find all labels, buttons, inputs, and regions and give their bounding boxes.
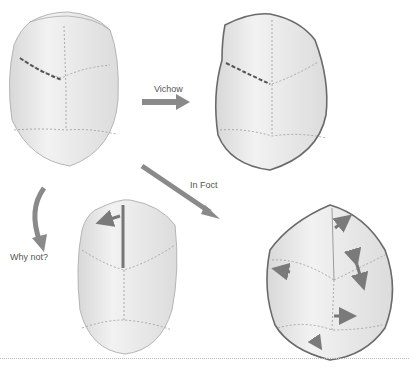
virchow-arrow [142, 94, 190, 110]
in-fact-skull [267, 205, 393, 360]
virchow-skull [216, 14, 327, 170]
normal-skull [9, 12, 118, 166]
bottom-divider [0, 358, 409, 359]
why-not-skull [78, 200, 177, 354]
why-not-arrow [32, 188, 47, 252]
label-virchow: Vichow [154, 84, 183, 94]
label-why-not: Why not? [10, 252, 48, 262]
label-in-fact: In Foct [190, 180, 218, 190]
